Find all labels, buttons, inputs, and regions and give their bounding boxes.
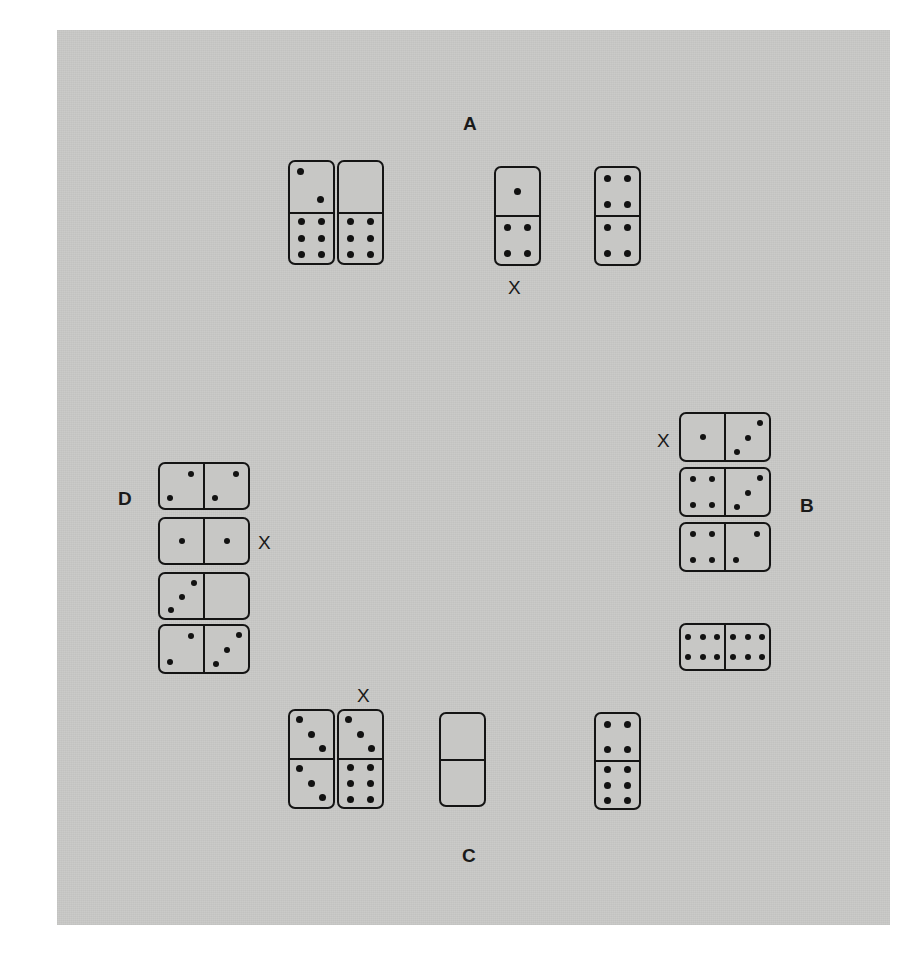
domino-c1[interactable] [288,709,335,809]
domino-half-second [203,464,248,508]
domino-b3[interactable] [679,522,771,572]
screenshot-page: AXBXCXDX [0,0,912,962]
domino-half-first [681,414,724,460]
pip [624,782,631,789]
pip [759,634,765,640]
pip [604,224,611,231]
domino-c3[interactable] [439,712,486,807]
pip [179,594,185,600]
pip [757,475,763,481]
domino-a3[interactable] [494,166,541,266]
domino-half-second [496,215,539,264]
pip [734,504,740,510]
domino-d1[interactable] [158,462,250,510]
pip [759,654,765,660]
domino-half-first [681,524,724,570]
domino-half-second [339,758,382,807]
domino-half-first [339,711,382,758]
domino-board: AXBXCXDX [57,30,890,925]
pip [236,632,242,638]
pip [298,235,305,242]
pip [604,721,611,728]
group-label-d: D [118,488,132,510]
mark-x-c: X [357,685,370,707]
pip [347,796,354,803]
pip [345,716,352,723]
domino-half-first [160,464,203,508]
pip [714,634,720,640]
pip [604,175,611,182]
pip [604,782,611,789]
pip [319,794,326,801]
pip [624,250,631,257]
pip [733,557,739,563]
pip [757,420,763,426]
domino-half-first [290,711,333,758]
pip [690,557,696,563]
pip [604,766,611,773]
pip [709,502,715,508]
domino-d2[interactable] [158,517,250,565]
pip [709,557,715,563]
pip [745,634,751,640]
pip [709,476,715,482]
pip [347,764,354,771]
domino-a4[interactable] [594,166,641,266]
domino-half-first [681,625,724,669]
domino-half-second [724,414,769,460]
domino-half-first [160,519,203,563]
domino-b2[interactable] [679,467,771,517]
pip [624,797,631,804]
pip [367,235,374,242]
domino-d4[interactable] [158,624,250,674]
pip [604,201,611,208]
pip [308,780,315,787]
pip [604,250,611,257]
pip [367,796,374,803]
pip [168,607,174,613]
pip [188,633,194,639]
domino-a2[interactable] [337,160,384,265]
domino-b1[interactable] [679,412,771,462]
pip [167,495,173,501]
pip [213,661,219,667]
pip [297,168,304,175]
pip [308,731,315,738]
pip [624,201,631,208]
pip [504,250,511,257]
domino-half-first [441,714,484,759]
group-label-c: C [462,845,476,867]
pip [700,434,706,440]
domino-half-second [290,212,333,264]
pip [224,647,230,653]
pip [730,654,736,660]
domino-half-second [203,626,248,672]
pip [318,235,325,242]
pip [318,218,325,225]
domino-half-second [441,759,484,806]
pip [690,531,696,537]
pip [347,780,354,787]
domino-half-first [290,162,333,212]
pip [745,654,751,660]
pip [188,471,194,477]
domino-half-first [160,574,203,618]
pip [357,731,364,738]
domino-half-second [596,760,639,808]
pip [318,251,325,258]
domino-d3[interactable] [158,572,250,620]
domino-b4[interactable] [679,623,771,671]
pip [714,654,720,660]
domino-half-second [203,519,248,563]
pip [514,188,521,195]
pip [296,716,303,723]
pip [624,224,631,231]
domino-c4[interactable] [594,712,641,810]
pip [317,196,324,203]
pip [367,218,374,225]
domino-half-second [203,574,248,618]
domino-half-first [596,168,639,215]
domino-a1[interactable] [288,160,335,265]
pip [367,764,374,771]
domino-c2[interactable] [337,709,384,809]
